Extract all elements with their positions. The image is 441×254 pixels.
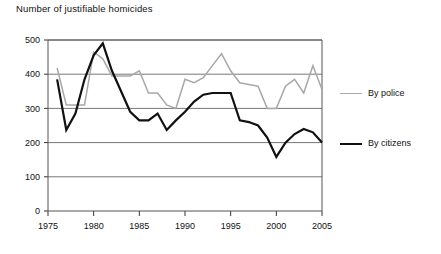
- y-tick-label: 300: [25, 104, 40, 114]
- y-axis-ticks: 0100200300400500: [25, 35, 48, 216]
- x-tick-label: 1990: [175, 221, 195, 231]
- legend-swatch-by-citizens: [340, 143, 362, 145]
- y-tick-label: 400: [25, 69, 40, 79]
- y-tick-label: 500: [25, 35, 40, 45]
- x-tick-label: 2000: [266, 221, 286, 231]
- x-tick-label: 2005: [312, 221, 332, 231]
- gridlines: [48, 40, 322, 177]
- plot-area: 0100200300400500 19751980198519901995200…: [0, 0, 441, 254]
- chart-container: Number of justifiable homicides 01002003…: [0, 0, 441, 254]
- x-axis-ticks: 1975198019851990199520002005: [38, 211, 332, 231]
- legend-label-by-police: By police: [368, 88, 405, 98]
- x-tick-label: 1985: [129, 221, 149, 231]
- x-tick-label: 1995: [221, 221, 241, 231]
- y-tick-label: 200: [25, 138, 40, 148]
- x-tick-label: 1980: [84, 221, 104, 231]
- x-tick-label: 1975: [38, 221, 58, 231]
- series-line-by-citizens: [57, 43, 322, 157]
- series-line-by-police: [57, 52, 322, 108]
- legend-swatch-by-police: [340, 93, 362, 94]
- legend-label-by-citizens: By citizens: [368, 138, 411, 148]
- y-tick-label: 100: [25, 172, 40, 182]
- y-tick-label: 0: [35, 206, 40, 216]
